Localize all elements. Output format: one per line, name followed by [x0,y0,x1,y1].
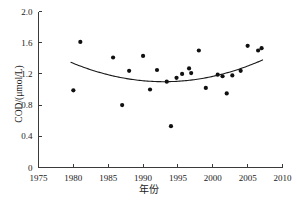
data-point [169,124,173,128]
data-point [141,54,145,58]
trend-curve [71,60,263,82]
x-tick-label: 1985 [99,174,117,183]
data-point [204,86,208,90]
data-point [111,55,115,59]
data-point [216,73,220,77]
data-point [180,72,184,76]
x-tick-label: 1990 [134,174,152,183]
data-point [78,40,82,44]
y-tick-label: 2.0 [0,7,33,16]
data-point [259,46,263,50]
data-point [256,48,260,52]
y-tick-label: 0 [0,163,33,172]
data-point [71,88,75,92]
data-point [165,80,169,84]
x-tick-label: 1995 [169,174,187,183]
y-axis-ticks [39,12,43,168]
data-point [155,68,159,72]
x-tick-label: 1975 [30,174,48,183]
data-point [197,48,201,52]
x-axis-ticks [39,164,283,168]
chart-canvas [0,0,297,201]
x-tick-label: 2005 [239,174,257,183]
data-point [127,69,131,73]
data-point [148,87,152,91]
y-axis-title: COD/(μmol/L) [14,34,24,154]
x-tick-label: 2000 [204,174,222,183]
data-point [174,76,178,80]
chart-figure: 00.40.81.21.62.0 19751980198519901995200… [0,0,297,201]
data-point [187,66,191,70]
data-point [246,44,250,48]
data-point [239,69,243,73]
data-point [220,74,224,78]
data-point [225,91,229,95]
x-tick-label: 2010 [274,174,292,183]
data-point [120,103,124,107]
data-point [189,71,193,75]
data-points [71,40,263,128]
x-axis-title: 年份 [0,184,297,195]
data-point [230,73,234,77]
x-tick-label: 1980 [64,174,82,183]
